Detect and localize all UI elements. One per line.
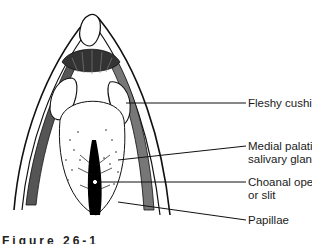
label-papillae: Papillae bbox=[248, 214, 289, 227]
anatomical-figure: Fleshy cushions Medial palatine salivary… bbox=[0, 0, 312, 244]
label-fleshy-cushions: Fleshy cushions bbox=[248, 97, 312, 110]
label-text: Fleshy cushions bbox=[248, 97, 312, 109]
label-text: Choanal opening bbox=[248, 176, 312, 189]
label-text: Medial palatine bbox=[248, 140, 312, 153]
figure-caption: Figure 26-1 bbox=[2, 233, 99, 244]
palate-drawing bbox=[0, 0, 312, 244]
label-choanal-opening: Choanal opening or slit bbox=[248, 176, 312, 202]
label-medial-palatine: Medial palatine salivary glands bbox=[248, 140, 312, 166]
label-text: or slit bbox=[248, 189, 312, 202]
label-text: Papillae bbox=[248, 214, 289, 226]
label-text: salivary glands bbox=[248, 153, 312, 166]
